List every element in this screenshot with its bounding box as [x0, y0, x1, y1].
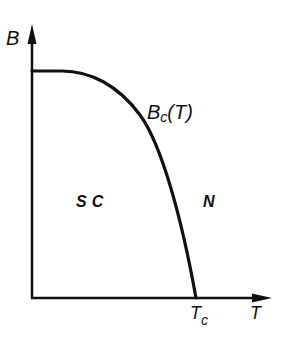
- x-axis-label: T: [250, 304, 261, 322]
- normal-region-label: N: [203, 194, 215, 210]
- curve-label: Bc(T): [147, 102, 193, 124]
- curve-label-main: B: [147, 101, 160, 123]
- superconducting-region-label: SC: [76, 194, 108, 210]
- tc-label-main: T: [190, 303, 201, 323]
- curve-label-suffix: (T): [167, 101, 193, 123]
- y-axis-arrow-icon: [28, 24, 37, 44]
- y-axis-label: B: [6, 28, 19, 48]
- x-axis-arrow-icon: [252, 294, 272, 303]
- tc-label-subscript: c: [201, 312, 208, 328]
- critical-temperature-label: Tc: [190, 304, 208, 327]
- phase-diagram: [0, 0, 288, 349]
